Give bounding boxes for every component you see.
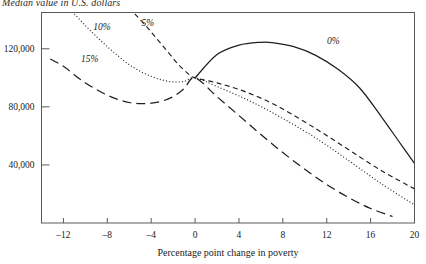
x-tick-label: –12 [55, 230, 71, 240]
series-line-0pct [195, 42, 414, 164]
series-line-10pct [74, 14, 414, 205]
x-tick-label: 4 [237, 230, 242, 240]
x-tick-label: 8 [280, 230, 285, 240]
y-tick-label: 80,000 [8, 102, 34, 112]
x-tick-label: –8 [102, 230, 113, 240]
x-tick-label: –4 [145, 230, 156, 240]
line-chart: –12–8–4048121620 40,00080,000120,000 0%5… [0, 0, 426, 264]
plot-frame [42, 13, 415, 224]
series-label-5pct: 5% [142, 18, 155, 28]
series-label-10pct: 10% [93, 22, 111, 32]
series-line-15pct [50, 59, 392, 217]
series-label-15pct: 15% [81, 54, 99, 64]
y-tick-label: 40,000 [8, 160, 34, 170]
x-tick-label: 20 [410, 230, 420, 240]
y-tick-label: 120,000 [4, 44, 35, 54]
series-curves [50, 14, 414, 217]
x-tick-label: 0 [193, 230, 198, 240]
y-axis-ticks: 40,00080,000120,000 [4, 44, 50, 170]
x-axis-title: Percentage point change in poverty [157, 247, 298, 258]
series-line-5pct [135, 14, 415, 189]
x-tick-label: 12 [322, 230, 332, 240]
series-annotations: 0%5%10%15% [81, 18, 340, 64]
series-label-0pct: 0% [327, 36, 340, 46]
chart-container: Median value in U.S. dollars –12–8–40481… [0, 0, 426, 264]
x-axis-ticks: –12–8–4048121620 [55, 218, 419, 240]
x-tick-label: 16 [366, 230, 376, 240]
